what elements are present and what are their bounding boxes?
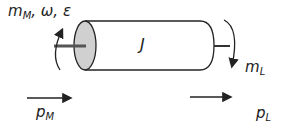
load-torque-label: mL (245, 58, 265, 77)
motor-power-label: pM (36, 103, 54, 122)
load-power-label: pL (256, 104, 271, 123)
diagram-canvas: mM, ω, ε J mL pM pL (0, 0, 283, 130)
load-rotation-arrow-icon (224, 20, 235, 66)
inertia-label: J (140, 35, 145, 54)
motor-torque-label: mM, ω, ε (8, 2, 71, 21)
motor-rotation-arrow-icon (55, 30, 62, 70)
